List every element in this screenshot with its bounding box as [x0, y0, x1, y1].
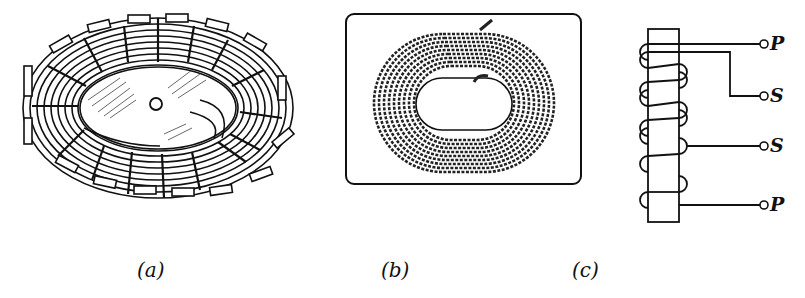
caption-a: (a) — [137, 258, 165, 282]
terminal-p1-dot — [760, 40, 768, 48]
caption-b: (b) — [381, 258, 409, 282]
terminal-label-s-upper: S — [770, 84, 784, 106]
terminal-label-p-bottom: P — [770, 193, 784, 215]
terminal-p2-dot — [760, 201, 768, 209]
terminal-label-s-lower: S — [770, 134, 784, 156]
figure-a-toroid-diagram — [0, 0, 300, 240]
terminal-s2-dot — [760, 142, 768, 150]
terminal-s1-dot — [760, 92, 768, 100]
figure-b-spiral-core-diagram — [330, 0, 610, 200]
caption-c: (c) — [572, 258, 599, 282]
terminal-label-p-top: P — [770, 32, 784, 54]
